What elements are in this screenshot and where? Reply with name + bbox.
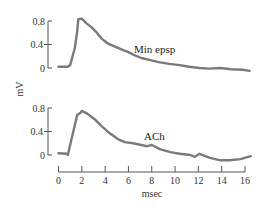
x-tick-label-6: 6 [126, 175, 131, 186]
x-tick-label-12: 12 [193, 175, 203, 186]
bottom-panel: 0.8 0.4 0 ACh [31, 103, 251, 161]
ach-label: ACh [144, 130, 165, 142]
chart-figure: 0.8 0.4 0 Min epsp mV 0.8 0.4 0 ACh 0246… [0, 0, 261, 211]
bottom-y-label-0.8: 0.8 [33, 103, 46, 114]
x-tick-label-14: 14 [217, 175, 227, 186]
bottom-y-label-0.4: 0.4 [31, 126, 44, 137]
x-tick-label-4: 4 [103, 175, 108, 186]
x-axis: 0246810121416 [56, 166, 250, 186]
x-axis-title: msec [142, 188, 163, 199]
top-y-label-0.4: 0.4 [31, 39, 44, 50]
y-axis-title: mV [14, 81, 25, 97]
top-y-label-0.8: 0.8 [33, 16, 46, 27]
min-epsp-label: Min epsp [134, 43, 176, 55]
top-y-label-0: 0 [40, 63, 45, 74]
bottom-y-label-0: 0 [40, 150, 45, 161]
x-tick-label-2: 2 [79, 175, 84, 186]
top-panel: 0.8 0.4 0 Min epsp [31, 16, 250, 74]
x-tick-label-16: 16 [240, 175, 250, 186]
x-tick-label-0: 0 [56, 175, 61, 186]
x-tick-label-8: 8 [149, 175, 154, 186]
x-tick-label-10: 10 [170, 175, 180, 186]
